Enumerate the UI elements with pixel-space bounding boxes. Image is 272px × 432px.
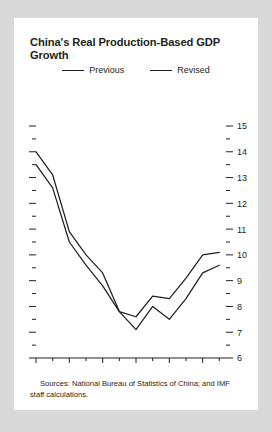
series-line-previous xyxy=(36,165,219,330)
y-tick-label: 14 xyxy=(237,147,247,157)
y-tick-label: 7 xyxy=(237,328,242,338)
legend-item-revised: Revised xyxy=(150,65,210,75)
y-tick-label: 11 xyxy=(237,225,246,235)
y-tick-label: 8 xyxy=(237,302,242,312)
legend-line-icon xyxy=(150,70,172,71)
chart-svg: 67891011121314151993959799200103 xyxy=(14,96,258,364)
plot-area: 67891011121314151993959799200103 xyxy=(14,96,258,364)
source-note: Sources: National Bureau of Statistics o… xyxy=(30,378,242,400)
y-tick-label: 6 xyxy=(237,353,242,363)
page-background: China's Real Production-Based GDP Growth… xyxy=(0,0,272,432)
y-tick-label: 10 xyxy=(237,250,247,260)
chart-card: China's Real Production-Based GDP Growth… xyxy=(14,18,258,410)
series-line-revised xyxy=(36,152,219,317)
legend-item-previous: Previous xyxy=(62,65,124,75)
legend-label-previous: Previous xyxy=(89,65,124,75)
page-title: China's Real Production-Based GDP Growth xyxy=(30,36,246,62)
y-tick-label: 12 xyxy=(237,199,247,209)
y-tick-label: 15 xyxy=(237,121,247,131)
legend-label-revised: Revised xyxy=(177,65,210,75)
legend-line-icon xyxy=(62,70,84,71)
chart-legend: Previous Revised xyxy=(14,65,258,75)
y-tick-label: 9 xyxy=(237,276,242,286)
y-tick-label: 13 xyxy=(237,173,247,183)
